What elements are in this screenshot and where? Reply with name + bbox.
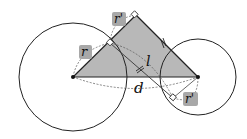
diagram-canvas: r r' r' l d [0, 0, 247, 139]
right-angle-marker-bottom [169, 94, 176, 101]
right-center-dot [196, 75, 200, 79]
left-center-dot [71, 75, 75, 79]
label-r: r [81, 44, 88, 59]
label-l: l [146, 53, 150, 69]
label-d: d [134, 79, 144, 97]
label-rprime-bottom: r' [185, 92, 194, 106]
label-rprime-top: r' [114, 12, 123, 26]
shaded-triangle [73, 15, 198, 77]
